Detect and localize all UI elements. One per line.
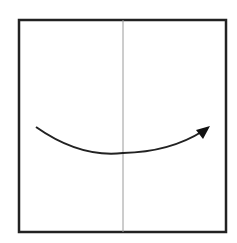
fold-diagram xyxy=(0,0,237,243)
